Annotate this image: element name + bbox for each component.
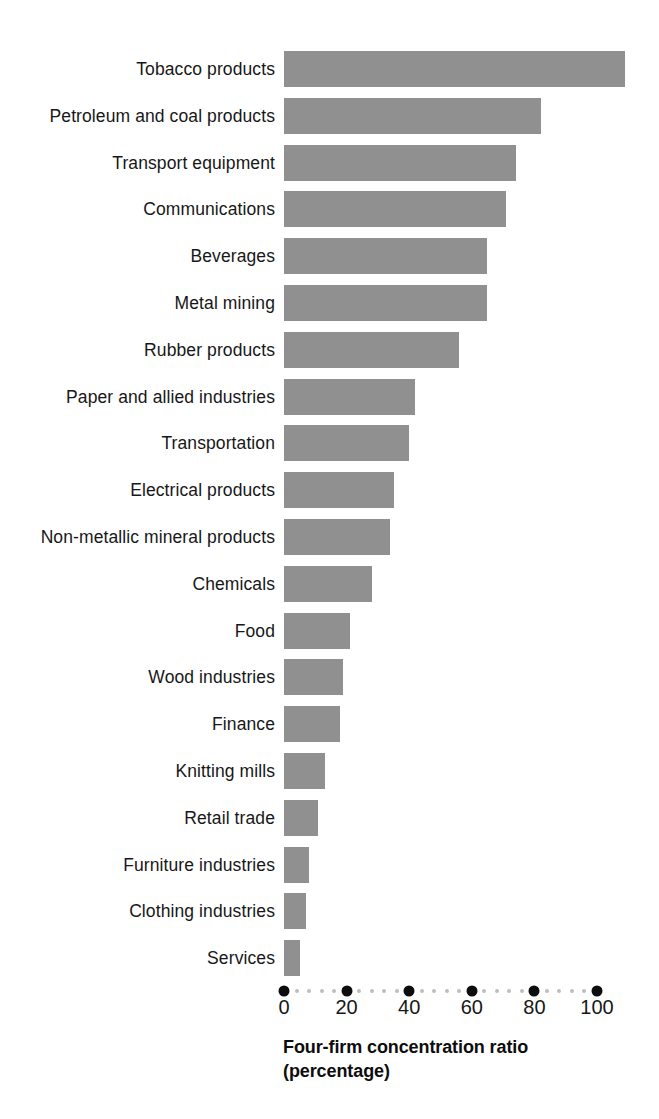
axis-tick-label: 0 (278, 996, 289, 1019)
bar-category-label: Food (235, 613, 275, 649)
bar-category-label: Chemicals (192, 566, 275, 602)
axis-major-tick-dot (404, 986, 415, 997)
axis-minor-tick-dot (445, 989, 449, 993)
bar-row: Food (0, 613, 659, 649)
bar-category-label: Non-metallic mineral products (41, 519, 275, 555)
bar-category-label: Clothing industries (129, 893, 275, 929)
bar-category-label: Retail trade (184, 800, 275, 836)
bar-row: Clothing industries (0, 893, 659, 929)
bar-row: Rubber products (0, 332, 659, 368)
bar-row: Communications (0, 191, 659, 227)
bar-row: Chemicals (0, 566, 659, 602)
bar (284, 51, 625, 87)
x-axis-title-line-2: (percentage) (283, 1060, 643, 1084)
bar-category-label: Communications (143, 191, 275, 227)
bar-row: Services (0, 940, 659, 976)
axis-minor-tick-dot (582, 989, 586, 993)
bar-row: Transportation (0, 425, 659, 461)
bar-row: Petroleum and coal products (0, 98, 659, 134)
bar-row: Paper and allied industries (0, 379, 659, 415)
bar (284, 238, 487, 274)
bar-row: Finance (0, 706, 659, 742)
bar-category-label: Services (207, 940, 275, 976)
axis-minor-tick-dot (570, 989, 574, 993)
bar-row: Metal mining (0, 285, 659, 321)
bar-row: Electrical products (0, 472, 659, 508)
bar-category-label: Tobacco products (136, 51, 275, 87)
bar-row: Furniture industries (0, 847, 659, 883)
axis-minor-tick-dot (545, 989, 549, 993)
bar (284, 519, 390, 555)
bar-category-label: Rubber products (144, 332, 275, 368)
axis-minor-tick-dot (307, 989, 311, 993)
axis-major-tick-dot (341, 986, 352, 997)
bar-category-label: Wood industries (148, 659, 275, 695)
axis-minor-tick-dot (370, 989, 374, 993)
bar (284, 379, 415, 415)
bar (284, 613, 350, 649)
axis-major-tick-dot (466, 986, 477, 997)
bar (284, 145, 516, 181)
bar-category-label: Furniture industries (123, 847, 275, 883)
axis-minor-tick-dot (457, 989, 461, 993)
axis-minor-tick-dot (507, 989, 511, 993)
axis-tick-label: 100 (580, 996, 613, 1019)
axis-minor-tick-dot (332, 989, 336, 993)
bar-chart: Tobacco productsPetroleum and coal produ… (0, 0, 659, 1119)
bar-category-label: Beverages (190, 238, 275, 274)
bar-row: Knitting mills (0, 753, 659, 789)
bar-category-label: Knitting mills (175, 753, 275, 789)
axis-tick-label: 60 (461, 996, 483, 1019)
plot-area: Tobacco productsPetroleum and coal produ… (0, 0, 659, 1000)
bar-category-label: Electrical products (130, 472, 275, 508)
bar-row: Tobacco products (0, 51, 659, 87)
bar (284, 800, 318, 836)
bar-row: Beverages (0, 238, 659, 274)
bar (284, 191, 506, 227)
bar-row: Retail trade (0, 800, 659, 836)
bar (284, 566, 372, 602)
bar-category-label: Transport equipment (112, 145, 275, 181)
axis-minor-tick-dot (520, 989, 524, 993)
bar (284, 706, 340, 742)
axis-tick-label: 40 (398, 996, 420, 1019)
x-axis-tick-labels: 020406080100 (0, 996, 659, 1022)
axis-minor-tick-dot (395, 989, 399, 993)
bar (284, 472, 394, 508)
bar-category-label: Finance (212, 706, 275, 742)
x-axis-title: Four-firm concentration ratio (percentag… (283, 1036, 643, 1084)
axis-minor-tick-dot (557, 989, 561, 993)
axis-minor-tick-dot (382, 989, 386, 993)
axis-minor-tick-dot (432, 989, 436, 993)
axis-tick-label: 20 (335, 996, 357, 1019)
x-axis-title-line-1: Four-firm concentration ratio (283, 1036, 643, 1060)
bar (284, 659, 343, 695)
axis-major-tick-dot (279, 986, 290, 997)
bar-row: Non-metallic mineral products (0, 519, 659, 555)
axis-minor-tick-dot (420, 989, 424, 993)
bar (284, 332, 459, 368)
bar (284, 285, 487, 321)
bar (284, 893, 306, 929)
axis-minor-tick-dot (482, 989, 486, 993)
bar-category-label: Transportation (161, 425, 275, 461)
bar (284, 98, 541, 134)
axis-minor-tick-dot (357, 989, 361, 993)
axis-minor-tick-dot (320, 989, 324, 993)
bar-category-label: Paper and allied industries (66, 379, 275, 415)
bar-category-label: Metal mining (175, 285, 275, 321)
bar (284, 940, 300, 976)
axis-major-tick-dot (529, 986, 540, 997)
axis-tick-label: 80 (523, 996, 545, 1019)
bar-row: Wood industries (0, 659, 659, 695)
bar-category-label: Petroleum and coal products (50, 98, 275, 134)
axis-minor-tick-dot (495, 989, 499, 993)
bar (284, 753, 325, 789)
bar (284, 425, 409, 461)
axis-minor-tick-dot (295, 989, 299, 993)
bar-row: Transport equipment (0, 145, 659, 181)
bar (284, 847, 309, 883)
axis-major-tick-dot (592, 986, 603, 997)
